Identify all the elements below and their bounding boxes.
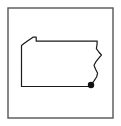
city-marker-dot [88,82,94,88]
map-figure [0,0,121,126]
pennsylvania-outline [22,37,102,86]
map-canvas [0,0,121,126]
